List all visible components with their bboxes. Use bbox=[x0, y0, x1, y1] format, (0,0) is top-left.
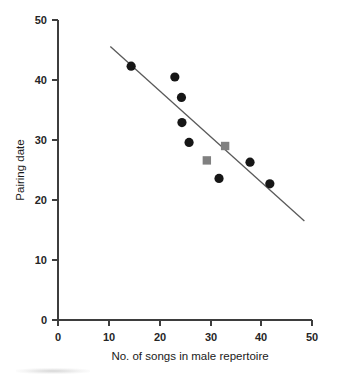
y-tick-label-50: 50 bbox=[35, 14, 47, 26]
x-axis-title: No. of songs in male repertoire bbox=[111, 350, 268, 362]
data-point-circle bbox=[177, 118, 186, 127]
x-tick-label-30: 30 bbox=[205, 331, 217, 343]
y-tick-label-10: 10 bbox=[35, 254, 47, 266]
data-point-square bbox=[203, 156, 211, 164]
data-point-circle bbox=[214, 174, 223, 183]
x-tick-label-50: 50 bbox=[306, 331, 318, 343]
data-point-circle bbox=[177, 93, 186, 102]
x-tick-label-0: 0 bbox=[55, 331, 61, 343]
y-tick-label-20: 20 bbox=[35, 194, 47, 206]
data-point-square bbox=[221, 142, 229, 150]
data-point-circle bbox=[184, 138, 193, 147]
data-point-circle bbox=[170, 72, 179, 81]
data-point-circle bbox=[265, 179, 274, 188]
x-tick-label-10: 10 bbox=[103, 331, 115, 343]
y-tick-label-0: 0 bbox=[41, 314, 47, 326]
y-axis-title: Pairing date bbox=[14, 139, 26, 200]
plot-background bbox=[0, 0, 350, 378]
x-tick-label-20: 20 bbox=[154, 331, 166, 343]
scatter-plot: 0 10 20 30 40 50 0 10 20 30 40 50 No. of… bbox=[0, 0, 350, 378]
y-tick-label-40: 40 bbox=[35, 74, 47, 86]
y-tick-label-30: 30 bbox=[35, 134, 47, 146]
x-tick-label-40: 40 bbox=[255, 331, 267, 343]
data-point-circle bbox=[127, 62, 136, 71]
data-point-circle bbox=[245, 158, 254, 167]
chart-container: 0 10 20 30 40 50 0 10 20 30 40 50 No. of… bbox=[0, 0, 350, 378]
